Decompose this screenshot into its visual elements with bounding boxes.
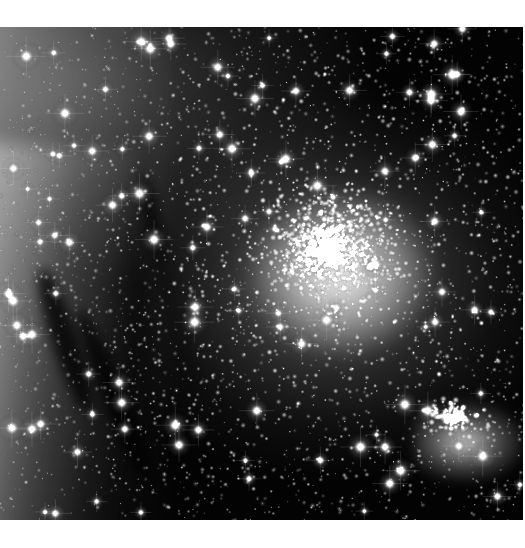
screenshot-canvas — [0, 0, 525, 548]
plate-border-bottom — [0, 520, 525, 548]
astronomy-image — [0, 27, 523, 520]
plate-border-top — [0, 0, 525, 27]
star-field — [0, 27, 523, 520]
star-field-canvas — [0, 27, 523, 520]
